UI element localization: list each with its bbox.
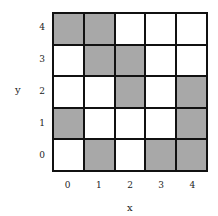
grid-cell xyxy=(176,13,207,45)
x-tick: 2 xyxy=(122,180,138,190)
grid-cell xyxy=(176,76,207,108)
grid-cell xyxy=(115,76,146,108)
y-axis-label: y xyxy=(15,84,21,95)
x-tick: 3 xyxy=(153,180,169,190)
grid-cell xyxy=(176,45,207,77)
grid-cell xyxy=(115,13,146,45)
grid-cell xyxy=(115,108,146,140)
x-tick: 1 xyxy=(91,180,107,190)
grid-cell xyxy=(145,45,176,77)
grid-cell xyxy=(84,108,115,140)
grid-cell xyxy=(53,45,84,77)
grid-cell xyxy=(115,45,146,77)
binary-grid xyxy=(52,12,208,172)
grid-cell xyxy=(53,13,84,45)
grid-cell xyxy=(145,139,176,171)
grid-cell xyxy=(84,13,115,45)
grid-cell xyxy=(145,108,176,140)
grid-cell xyxy=(115,139,146,171)
grid-cell xyxy=(53,139,84,171)
y-tick: 4 xyxy=(34,22,50,32)
grid-cell xyxy=(53,76,84,108)
grid-cell xyxy=(176,139,207,171)
grid-cell xyxy=(84,45,115,77)
grid-cell xyxy=(84,76,115,108)
grid-cell xyxy=(53,108,84,140)
grid-cell xyxy=(145,76,176,108)
y-tick: 2 xyxy=(34,86,50,96)
x-tick: 4 xyxy=(184,180,200,190)
y-tick: 0 xyxy=(34,150,50,160)
y-tick: 3 xyxy=(34,54,50,64)
grid-cell xyxy=(176,108,207,140)
x-tick: 0 xyxy=(60,180,76,190)
x-axis-label: x xyxy=(127,202,133,213)
y-tick: 1 xyxy=(34,118,50,128)
grid-cell xyxy=(145,13,176,45)
grid-cell xyxy=(84,139,115,171)
